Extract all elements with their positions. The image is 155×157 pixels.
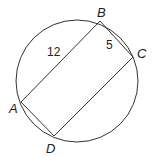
rectangle-inscribed-in-circle-diagram: B C A D 12 5	[0, 0, 155, 157]
segment-da	[21, 102, 54, 136]
length-label-ab: 12	[47, 45, 61, 59]
point-label-c: C	[137, 46, 147, 61]
segment-cd	[54, 57, 133, 136]
circle	[16, 20, 138, 142]
segment-bc	[100, 21, 133, 57]
point-label-d: D	[46, 141, 55, 156]
point-label-b: B	[97, 5, 106, 20]
segment-ab	[21, 21, 100, 102]
length-label-bc: 5	[106, 38, 113, 52]
point-label-a: A	[8, 101, 18, 116]
